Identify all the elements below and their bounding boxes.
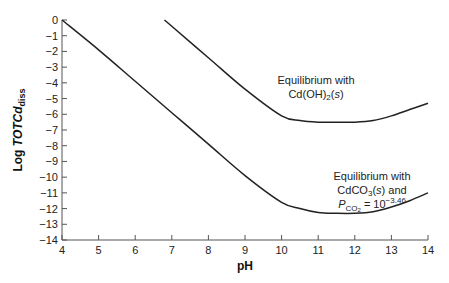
y-tick-label: 0 xyxy=(52,14,58,26)
x-tick-label: 9 xyxy=(242,244,248,256)
y-tick-label: −8 xyxy=(45,140,58,152)
x-tick-label: 7 xyxy=(169,244,175,256)
y-tick-label: −6 xyxy=(45,108,58,120)
y-tick-label: −5 xyxy=(45,93,58,105)
x-axis-title: pH xyxy=(237,259,253,273)
x-ticks: 4567891011121314 xyxy=(59,235,434,256)
y-tick-label: −12 xyxy=(39,203,58,215)
y-tick-label: −2 xyxy=(45,45,58,57)
y-tick-label: −1 xyxy=(45,30,58,42)
y-tick-label: −10 xyxy=(39,171,58,183)
x-tick-label: 11 xyxy=(312,244,323,256)
x-tick-label: 6 xyxy=(132,244,138,256)
svg-text:Cd(OH)2(s): Cd(OH)2(s) xyxy=(288,88,343,102)
y-tick-label: −13 xyxy=(39,218,58,230)
svg-text:PCO2 = 10−3.46: PCO2 = 10−3.46 xyxy=(338,196,406,213)
x-tick-label: 12 xyxy=(349,244,361,256)
annotation-cdco3: Equilibrium with CdCO3(s) and PCO2 = 10−… xyxy=(333,170,410,213)
chart: 0−1−2−3−4−5−6−7−8−9−10−11−12−13−14 45678… xyxy=(0,0,449,283)
svg-text:Equilibrium with: Equilibrium with xyxy=(333,170,410,182)
y-axis-title: Log TOTCddiss xyxy=(11,88,27,171)
x-tick-label: 8 xyxy=(205,244,211,256)
y-tick-label: −11 xyxy=(40,187,58,199)
svg-text:Equilibrium with: Equilibrium with xyxy=(277,74,354,86)
x-tick-label: 14 xyxy=(422,244,434,256)
y-tick-label: −9 xyxy=(45,155,58,167)
y-tick-label: −14 xyxy=(39,234,58,246)
x-tick-label: 4 xyxy=(59,244,65,256)
y-ticks: 0−1−2−3−4−5−6−7−8−9−10−11−12−13−14 xyxy=(39,14,67,246)
annotation-cd-oh2: Equilibrium with Cd(OH)2(s) xyxy=(277,74,354,102)
x-tick-label: 5 xyxy=(96,244,102,256)
x-tick-label: 10 xyxy=(275,244,287,256)
y-tick-label: −4 xyxy=(45,77,58,89)
x-tick-label: 13 xyxy=(385,244,397,256)
y-tick-label: −3 xyxy=(45,61,58,73)
y-tick-label: −7 xyxy=(45,124,58,136)
cd-oh2-curve xyxy=(164,20,428,122)
